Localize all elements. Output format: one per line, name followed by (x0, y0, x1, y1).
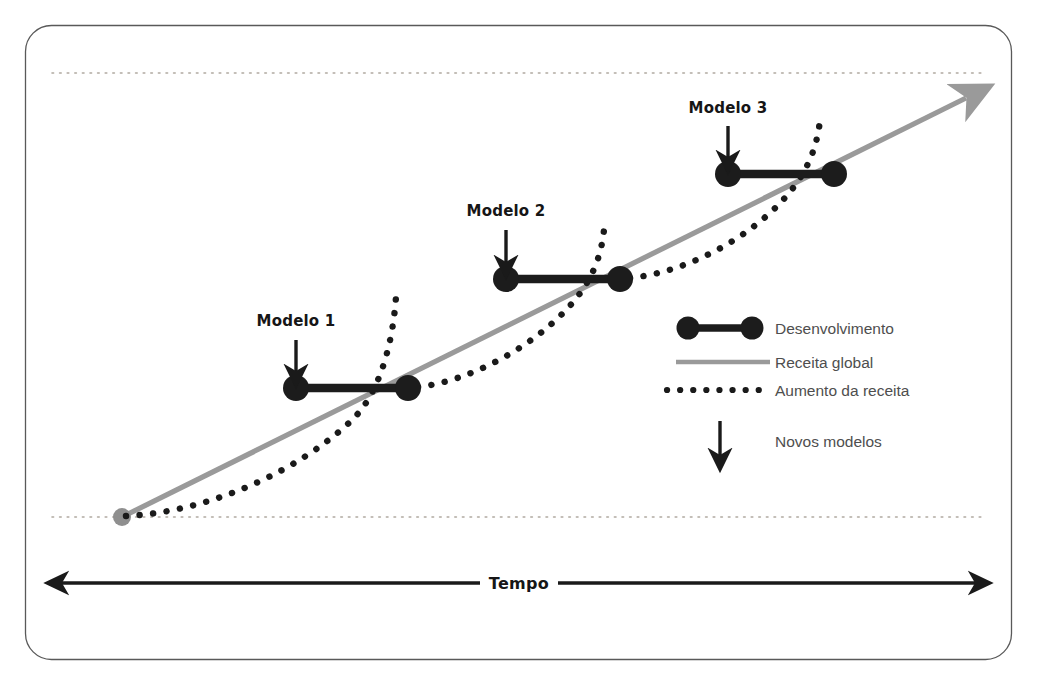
modelo-2-label: Modelo 2 (467, 202, 546, 220)
receita-global-trend-line (122, 98, 966, 517)
aumento-receita-curve (126, 120, 820, 516)
dumbbell-modelo-2 (493, 266, 633, 292)
annotation-modelo-3: Modelo 3 (689, 99, 768, 157)
legend-label-aumento-receita: Aumento da receita (775, 382, 910, 399)
legend-dumbbell-swatch (677, 317, 764, 340)
dumbbell-modelo-1 (283, 375, 421, 401)
modelo-1-label: Modelo 1 (257, 312, 336, 330)
legend-item-aumento-receita: Aumento da receita (667, 382, 910, 399)
annotation-modelo-1: Modelo 1 (257, 312, 336, 371)
legend-label-novos-modelos: Novos modelos (775, 433, 882, 450)
legend: Desenvolvimento Receita global Aumento d… (667, 317, 910, 456)
legend-item-novos-modelos: Novos modelos (720, 421, 882, 455)
legend-label-receita-global: Receita global (775, 354, 873, 371)
x-axis: Tempo (62, 574, 975, 593)
dumbbell-modelo-3 (715, 161, 847, 187)
frame-border (26, 26, 1012, 660)
legend-item-desenvolvimento: Desenvolvimento (677, 317, 894, 340)
curve-segment-3 (630, 120, 820, 278)
diagram-figure: Modelo 1 Modelo 2 Modelo 3 Desenvolvimen… (0, 0, 1037, 681)
curve-segment-2 (418, 230, 604, 387)
legend-label-desenvolvimento: Desenvolvimento (775, 320, 894, 337)
diagram-canvas: Modelo 1 Modelo 2 Modelo 3 Desenvolvimen… (0, 0, 1037, 681)
modelo-3-label: Modelo 3 (689, 99, 768, 117)
x-axis-label: Tempo (489, 574, 549, 593)
legend-item-receita-global: Receita global (676, 354, 873, 371)
annotation-modelo-2: Modelo 2 (467, 202, 546, 262)
